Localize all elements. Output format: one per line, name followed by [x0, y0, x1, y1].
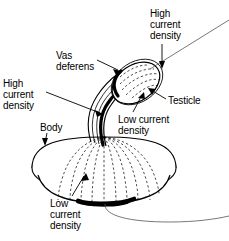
- body-shape: [32, 137, 176, 205]
- current-density-diagram: High current density Vas deferens High c…: [0, 0, 229, 241]
- label-testicle: Testicle: [168, 95, 201, 106]
- label-high-current-density-left: High current density: [3, 78, 34, 112]
- label-high-current-density-top: High current density: [150, 8, 181, 42]
- label-low-current-density-middle: Low current density: [118, 114, 169, 136]
- leader-high-left: [46, 92, 100, 113]
- diagram-canvas: [0, 0, 229, 241]
- label-low-current-density-bottom: Low current density: [50, 198, 81, 232]
- leader-vas: [97, 60, 118, 70]
- lead-wire-lower: [105, 204, 229, 222]
- label-body: Body: [40, 122, 62, 133]
- label-vas-deferens: Vas deferens: [56, 50, 94, 72]
